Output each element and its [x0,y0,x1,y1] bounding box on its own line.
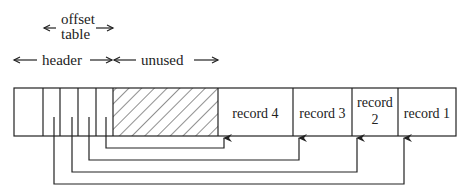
offset-table-label-line2: table [61,27,90,42]
record-4-label: record 4 [218,105,293,122]
record-2-label-line1: record [352,94,398,111]
offset-table-label-line1: offset [61,12,95,27]
unused-region [113,88,218,136]
unused-label: unused [141,53,184,68]
record-1-label: record 1 [398,105,456,122]
header-label: header [42,53,82,68]
record-3-label: record 3 [293,105,352,122]
record-2-label-line2: 2 [352,111,398,128]
